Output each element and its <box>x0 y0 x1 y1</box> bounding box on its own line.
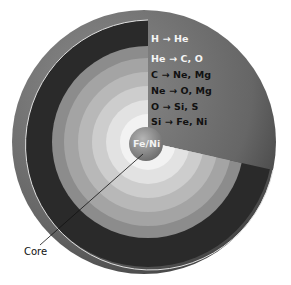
layer-label-o-sis: O → Si, S <box>151 101 198 112</box>
core-label: Fe/Ni <box>133 138 160 149</box>
layer-label-he-co: He → C, O <box>151 53 203 64</box>
layer-label-si-feni: Si → Fe, Ni <box>151 116 207 127</box>
layer-label-ne-omg: Ne → O, Mg <box>151 85 212 96</box>
core-pointer-label: Core <box>24 246 47 257</box>
layer-label-h-he: H → He <box>151 33 189 44</box>
layer-label-c-nemg: C → Ne, Mg <box>151 69 211 80</box>
